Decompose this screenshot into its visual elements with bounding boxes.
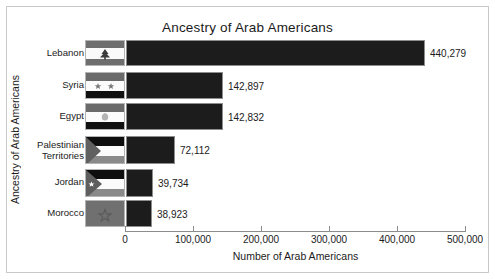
bar-egypt	[126, 103, 223, 130]
bar-jordan	[126, 169, 153, 197]
x-axis-label: Number of Arab Americans	[125, 250, 466, 262]
bar-value-syria: 142,897	[228, 81, 264, 92]
x-axis-tick	[125, 226, 126, 232]
category-label-morocco: Morocco	[18, 208, 84, 219]
chart-figure: Ancestry of Arab Americans Ancestry of A…	[0, 0, 495, 279]
bar-morocco	[126, 200, 152, 227]
x-axis-line	[125, 231, 466, 232]
bar-lebanon	[126, 40, 425, 66]
category-label-egypt: Egypt	[18, 111, 84, 122]
category-label-syria: Syria	[18, 80, 84, 91]
x-axis-tick	[465, 226, 466, 232]
bar-palestinian-territories	[126, 136, 175, 164]
x-axis-tick-label: 300,000	[311, 234, 347, 245]
bar-value-palestinian-territories: 72,112	[180, 145, 210, 156]
eagle-icon	[86, 104, 124, 130]
lebanon-flag-icon	[85, 40, 125, 66]
x-axis-tick	[261, 226, 262, 232]
bar-value-jordan: 39,734	[158, 178, 189, 189]
category-label-jordan: Jordan	[18, 177, 84, 188]
x-axis-tick	[329, 226, 330, 232]
cedar-tree-icon	[86, 41, 124, 66]
palestine-flag-icon	[85, 136, 125, 164]
triangle-icon	[86, 137, 124, 164]
category-label-lebanon: Lebanon	[18, 48, 84, 59]
bar-syria	[126, 72, 223, 99]
x-axis-tick-label: 100,000	[175, 234, 211, 245]
x-axis-tick	[193, 226, 194, 232]
pentagram-icon	[86, 201, 124, 227]
x-axis-tick-label: 0	[122, 234, 128, 245]
bar-value-egypt: 142,832	[228, 112, 264, 123]
category-label-palestinian-territories: Palestinian Territories	[12, 140, 84, 161]
egypt-flag-icon	[85, 103, 125, 130]
bar-value-lebanon: 440,279	[430, 48, 466, 59]
plot-area: Lebanon 440,279 Syria	[0, 0, 495, 279]
x-axis-tick-label: 500,000	[447, 234, 483, 245]
x-axis-tick-label: 400,000	[379, 234, 415, 245]
triangle-star-icon	[86, 170, 124, 197]
jordan-flag-icon	[85, 169, 125, 197]
morocco-flag-icon	[85, 200, 125, 227]
x-axis-tick-label: 200,000	[243, 234, 279, 245]
two-stars-icon	[86, 73, 124, 99]
bar-value-morocco: 38,923	[157, 209, 188, 220]
x-axis-tick	[397, 226, 398, 232]
syria-flag-icon	[85, 72, 125, 99]
